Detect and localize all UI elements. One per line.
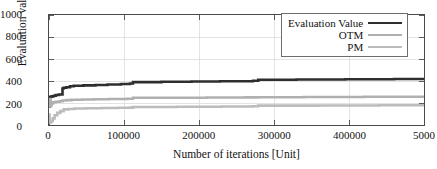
y-tick-label: 800 <box>0 30 22 42</box>
legend-item: PM <box>288 41 402 53</box>
x-tick-label: 100000 <box>107 129 140 141</box>
legend-label: Evaluation Value <box>288 17 363 29</box>
x-tick-label: 200000 <box>182 129 215 141</box>
series-line-pm <box>49 105 424 122</box>
y-tick-label: 400 <box>0 75 22 87</box>
legend: Evaluation ValueOTMPM <box>281 13 408 57</box>
x-tick-label: 5000 <box>413 129 435 141</box>
legend-line-swatch <box>368 46 402 48</box>
x-tick-label: 300000 <box>258 129 291 141</box>
y-tick-label: 200 <box>0 98 22 110</box>
legend-label: PM <box>347 41 363 53</box>
y-tick-label: 1000 <box>0 8 22 20</box>
chart-figure: Evaluation value [Unit] 0200400600800100… <box>0 0 437 169</box>
y-tick-label: 600 <box>0 53 22 65</box>
legend-line-swatch <box>368 34 402 36</box>
x-axis-label: Number of iterations [Unit] <box>48 148 425 160</box>
series-line-evaluation-value <box>49 79 424 106</box>
legend-item: Evaluation Value <box>288 17 402 29</box>
legend-label: OTM <box>339 29 363 41</box>
legend-item: OTM <box>288 29 402 41</box>
x-tick-label: 400000 <box>333 129 366 141</box>
y-tick-label: 0 <box>0 120 22 132</box>
legend-line-swatch <box>368 22 402 24</box>
x-tick-label: 0 <box>45 129 51 141</box>
